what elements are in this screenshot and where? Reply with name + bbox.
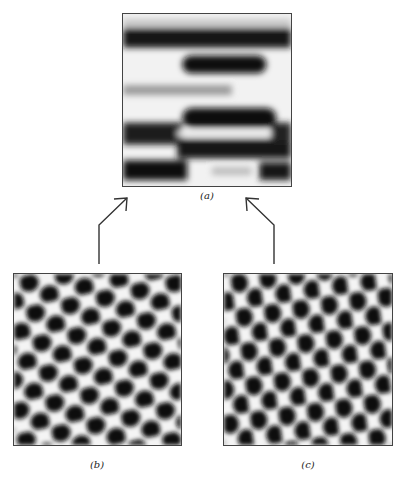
arrow-b-to-a: [99, 198, 127, 264]
panel-b: [13, 273, 182, 446]
panel-b-label: (b): [77, 459, 117, 470]
panel-c-label: (c): [288, 459, 328, 470]
panel-a: [122, 13, 292, 187]
panel-c: [223, 273, 393, 446]
panel-a-label: (a): [187, 190, 227, 201]
arrow-c-to-a: [246, 198, 274, 264]
